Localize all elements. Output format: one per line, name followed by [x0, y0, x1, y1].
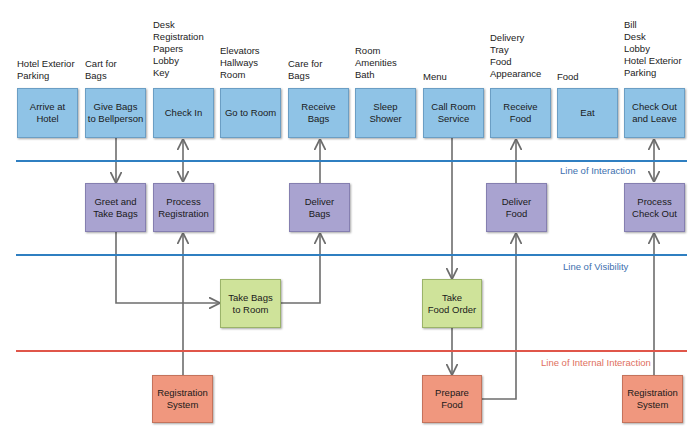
support-registration-system-checkout: Registration System: [622, 375, 683, 423]
customer-action-go-to-room: Go to Room: [220, 88, 281, 138]
line-of-visibility: [16, 254, 687, 256]
customer-action-check-in: Check In: [153, 88, 214, 138]
backstage-take-bags-to-room: Take Bags to Room: [220, 279, 281, 328]
evidence-label: Bill Desk Lobby Hotel Exterior Parking: [624, 19, 682, 79]
customer-action-eat: Eat: [557, 88, 618, 138]
backstage-take-food-order: Take Food Order: [422, 279, 482, 328]
evidence-label: Delivery Tray Food Appearance: [490, 32, 541, 80]
onstage-greet-take-bags: Greet and Take Bags: [85, 183, 146, 232]
onstage-process-registration: Process Registration: [153, 183, 214, 232]
onstage-process-check-out: Process Check Out: [624, 183, 685, 232]
support-registration-system: Registration System: [152, 375, 213, 423]
customer-action-sleep: Sleep Shower: [355, 88, 416, 138]
evidence-label: Cart for Bags: [85, 58, 117, 82]
customer-action-receive-food: Receive Food: [490, 88, 551, 138]
support-prepare-food: Prepare Food: [422, 375, 482, 423]
customer-action-call-room-service: Call Room Service: [423, 88, 484, 138]
evidence-label: Menu: [423, 71, 447, 83]
evidence-label: Room Amenities Bath: [355, 45, 397, 81]
onstage-deliver-bags: Deliver Bags: [289, 183, 350, 232]
evidence-label: Elevators Hallways Room: [220, 45, 260, 81]
line-of-interaction-label: Line of Interaction: [560, 165, 636, 176]
evidence-label: Care for Bags: [288, 58, 322, 82]
customer-action-give-bags: Give Bags to Bellperson: [85, 88, 146, 138]
evidence-label: Hotel Exterior Parking: [17, 58, 75, 82]
line-of-visibility-label: Line of Visibility: [563, 261, 628, 272]
customer-action-receive-bags: Receive Bags: [288, 88, 349, 138]
line-of-interaction: [16, 160, 687, 162]
evidence-label: Food: [557, 71, 579, 83]
evidence-label: Desk Registration Papers Lobby Key: [153, 19, 204, 79]
line-of-internal-interaction: [16, 350, 687, 352]
customer-action-check-out: Check Out and Leave: [624, 88, 685, 138]
line-of-internal-interaction-label: Line of Internal Interaction: [541, 357, 651, 368]
onstage-deliver-food: Deliver Food: [486, 183, 547, 232]
customer-action-arrive: Arrive at Hotel: [17, 88, 78, 138]
